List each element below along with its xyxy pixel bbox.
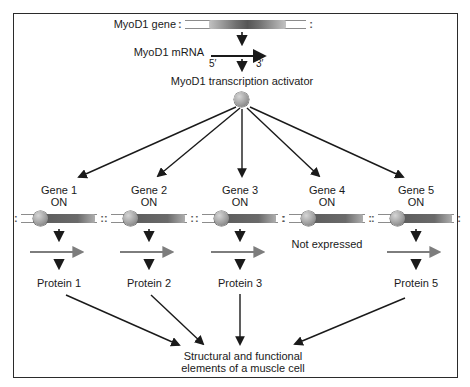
gene-name: Gene 1 xyxy=(15,184,103,196)
myod1-gene-region xyxy=(209,20,286,29)
gene-name: Gene 3 xyxy=(196,184,284,196)
outcome-line-2: elements of a muscle cell xyxy=(143,362,343,374)
activator-label: MyoD1 transcription activator xyxy=(142,75,342,87)
bound-activator-icon xyxy=(214,211,229,226)
dna-right-end-mark: : xyxy=(457,211,461,226)
gene-state: ON xyxy=(105,196,193,208)
gene-dna-bar: : : xyxy=(15,211,103,226)
gene-column-1: Gene 1 ON : : Protein 1 xyxy=(15,184,103,299)
gene-name: Gene 5 xyxy=(372,184,460,196)
gene-state: ON xyxy=(15,196,103,208)
protein-label: Protein 3 xyxy=(186,277,294,289)
gene-dna-bar: : : xyxy=(105,211,193,226)
gene-column-4: Gene 4 ON : : Not expressed xyxy=(283,184,371,299)
myod1-gene-dna-bar: : : xyxy=(179,17,312,32)
gene-name: Gene 4 xyxy=(283,184,371,196)
five-prime-label: 5′ xyxy=(209,58,216,70)
bound-activator-icon xyxy=(33,211,48,226)
gene-name: Gene 2 xyxy=(105,184,193,196)
gene-column-2: Gene 2 ON : : Protein 2 xyxy=(105,184,193,299)
gene-dna-bar: : : xyxy=(283,211,371,226)
activator-protein-icon xyxy=(234,92,249,107)
dna-right-end-mark: : xyxy=(190,211,194,226)
gene-state: ON xyxy=(283,196,371,208)
gene-state: ON xyxy=(372,196,460,208)
bound-activator-icon xyxy=(390,211,405,226)
three-prime-label: 3′ xyxy=(256,58,263,70)
outcome-line-1: Structural and functional xyxy=(143,350,343,362)
protein-label: Protein 5 xyxy=(362,277,470,289)
gene-dna-bar: : : xyxy=(196,211,284,226)
dna-left-end-mark: : xyxy=(195,211,199,226)
bound-activator-icon xyxy=(123,211,138,226)
gene-column-3: Gene 3 ON : : Protein 3 xyxy=(196,184,284,299)
figure-canvas: MyoD1 gene : : MyoD1 mRNA 5′ 3′ MyoD1 tr… xyxy=(0,0,470,387)
dna-left-end-mark: : xyxy=(104,211,108,226)
myod1-gene-label: MyoD1 gene xyxy=(100,18,176,30)
not-expressed-note: Not expressed xyxy=(273,238,381,250)
dna-left-end-mark: : xyxy=(371,211,375,226)
myod1-mrna-label: MyoD1 mRNA xyxy=(116,46,204,58)
bound-activator-icon xyxy=(301,211,316,226)
dna-right-end-mark: : xyxy=(309,17,313,32)
dna-left-end-mark: : xyxy=(14,211,18,226)
gene-dna-bar: : : xyxy=(372,211,460,226)
dna-left-end-mark: : xyxy=(178,17,182,32)
gene-state: ON xyxy=(196,196,284,208)
gene-column-5: Gene 5 ON : : Protein 5 xyxy=(372,184,460,299)
dna-left-end-mark: : xyxy=(282,211,286,226)
